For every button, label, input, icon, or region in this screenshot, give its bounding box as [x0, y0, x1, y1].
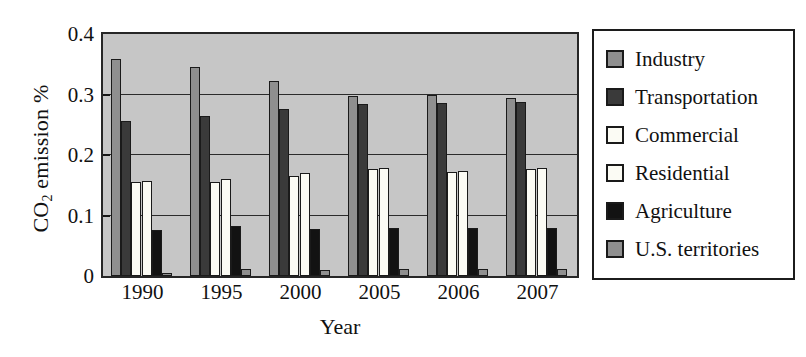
- bar-1995-agriculture: [231, 226, 241, 276]
- x-axis-tick-label-2005: 2005: [359, 280, 401, 305]
- legend-swatch-icon: [606, 126, 624, 144]
- legend-item-label: Commercial: [635, 125, 739, 146]
- legend-item-label: Residential: [635, 163, 729, 184]
- bar-1995-commercial: [210, 182, 220, 276]
- legend-swatch-icon: [606, 88, 624, 106]
- bar-2000-commercial: [289, 176, 299, 276]
- bar-series-container: [103, 34, 577, 276]
- bar-2005-industry: [348, 96, 358, 276]
- legend-item-label: Industry: [635, 49, 705, 70]
- plot-area: [101, 32, 579, 278]
- bar-2005-agriculture: [389, 228, 399, 276]
- bar-2007-agriculture: [547, 228, 557, 276]
- bar-2000-residential: [300, 173, 310, 276]
- legend-item-commercial[interactable]: Commercial: [606, 116, 793, 154]
- bar-group-2006: [419, 34, 498, 276]
- bar-2000-agriculture: [310, 229, 320, 276]
- bar-1990-commercial: [131, 182, 141, 276]
- x-axis-tick-label-2006: 2006: [438, 280, 480, 305]
- bar-1990-agriculture: [152, 230, 162, 276]
- x-axis-tick-label-1990: 1990: [122, 280, 164, 305]
- bar-2007-transportation: [516, 102, 526, 276]
- legend-item-agriculture[interactable]: Agriculture: [606, 192, 793, 230]
- bar-2000-u-s-territories: [320, 270, 330, 276]
- bar-1995-u-s-territories: [241, 269, 251, 276]
- bar-2006-residential: [458, 171, 468, 276]
- legend-item-residential[interactable]: Residential: [606, 154, 793, 192]
- bar-1995-residential: [221, 179, 231, 276]
- legend-swatch-icon: [606, 240, 624, 258]
- bar-group-2000: [261, 34, 340, 276]
- bar-2000-industry: [269, 81, 279, 276]
- bar-2005-u-s-territories: [399, 269, 409, 276]
- bar-1995-transportation: [200, 116, 210, 276]
- bar-group-2007: [498, 34, 577, 276]
- bar-2000-transportation: [279, 109, 289, 276]
- bar-2006-transportation: [437, 103, 447, 276]
- bar-2007-commercial: [526, 169, 536, 276]
- bar-2006-commercial: [447, 172, 457, 276]
- bar-group-1995: [182, 34, 261, 276]
- bar-2006-agriculture: [468, 228, 478, 276]
- bar-2007-industry: [506, 98, 516, 276]
- bar-2006-u-s-territories: [478, 269, 488, 276]
- bar-2007-u-s-territories: [557, 269, 567, 276]
- legend-item-industry[interactable]: Industry: [606, 40, 793, 78]
- bar-group-1990: [103, 34, 182, 276]
- x-axis-tick-labels: 199019952000200520062007: [101, 280, 579, 310]
- legend-swatch-icon: [606, 202, 624, 220]
- legend-item-transportation[interactable]: Transportation: [606, 78, 793, 116]
- bar-group-2005: [340, 34, 419, 276]
- bar-2006-industry: [427, 95, 437, 277]
- x-axis-title: Year: [101, 314, 579, 340]
- legend-item-label: U.S. territories: [635, 239, 759, 260]
- co2-emission-bar-chart: CO2 emission % 00.10.20.30.4 19901995200…: [0, 0, 806, 357]
- y-axis-tick-label: 0.3: [46, 84, 94, 105]
- bar-1995-industry: [190, 67, 200, 276]
- bar-1990-u-s-territories: [162, 273, 172, 276]
- x-axis-tick-label-2007: 2007: [517, 280, 559, 305]
- x-axis-tick-label-1995: 1995: [201, 280, 243, 305]
- bar-1990-residential: [142, 181, 152, 276]
- chart-legend: IndustryTransportationCommercialResident…: [592, 29, 795, 280]
- y-axis-tick-label: 0.1: [46, 205, 94, 226]
- y-axis-tick-label: 0.4: [46, 24, 94, 45]
- bar-2005-commercial: [368, 169, 378, 276]
- legend-swatch-icon: [606, 164, 624, 182]
- y-axis-tick-label: 0.2: [46, 145, 94, 166]
- y-axis-tick-labels: 00.10.20.30.4: [46, 32, 94, 278]
- legend-swatch-icon: [606, 50, 624, 68]
- legend-item-u-s-territories[interactable]: U.S. territories: [606, 230, 793, 268]
- legend-item-label: Transportation: [635, 87, 758, 108]
- y-axis-tick-label: 0: [46, 266, 94, 287]
- bar-2005-transportation: [358, 104, 368, 276]
- bar-2007-residential: [537, 168, 547, 276]
- bar-2005-residential: [379, 168, 389, 276]
- legend-item-label: Agriculture: [635, 201, 732, 222]
- bar-1990-transportation: [121, 121, 131, 276]
- x-axis-tick-label-2000: 2000: [280, 280, 322, 305]
- bar-1990-industry: [111, 59, 121, 276]
